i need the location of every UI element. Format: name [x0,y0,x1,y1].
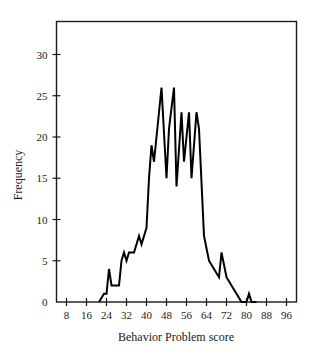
y-tick-label: 25 [37,90,49,102]
figure-container: 81624324048566472808896 051015202530 Beh… [0,0,315,355]
x-tick-label: 72 [221,309,232,321]
y-axis-title: Frequency [11,150,25,201]
frequency-polygon-chart: 81624324048566472808896 051015202530 Beh… [0,0,315,355]
x-tick-label: 16 [81,309,93,321]
x-tick-label: 88 [261,309,273,321]
y-tick-label: 15 [37,172,49,184]
x-axis-title: Behavior Problem score [118,330,234,344]
x-tick-label: 56 [181,309,193,321]
x-tick-label: 8 [64,309,70,321]
x-tick-label: 48 [161,309,173,321]
y-tick-label: 30 [37,49,49,61]
x-tick-label: 80 [241,309,253,321]
y-tick-label: 5 [42,255,48,267]
y-axis-tick-labels: 051015202530 [37,49,49,309]
x-axis-tick-labels: 81624324048566472808896 [64,309,293,321]
frequency-polygon-line [99,88,257,303]
x-tick-label: 64 [201,309,213,321]
y-tick-label: 10 [37,214,49,226]
y-tick-label: 0 [42,296,48,308]
x-tick-label: 96 [281,309,293,321]
y-tick-label: 20 [37,131,49,143]
x-tick-label: 40 [141,309,153,321]
x-tick-label: 32 [121,309,132,321]
x-tick-label: 24 [101,309,113,321]
